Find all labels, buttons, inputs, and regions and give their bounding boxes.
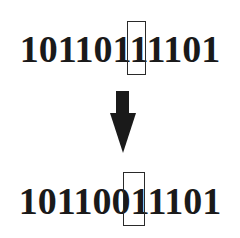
flipped-bit-string: 10110011101 — [0, 182, 240, 220]
highlight-box-original-bit — [127, 21, 146, 75]
arrow-down-icon — [110, 91, 136, 153]
highlight-box-flipped-bit — [123, 172, 145, 226]
original-bit-string: 10110111101 — [0, 30, 240, 68]
